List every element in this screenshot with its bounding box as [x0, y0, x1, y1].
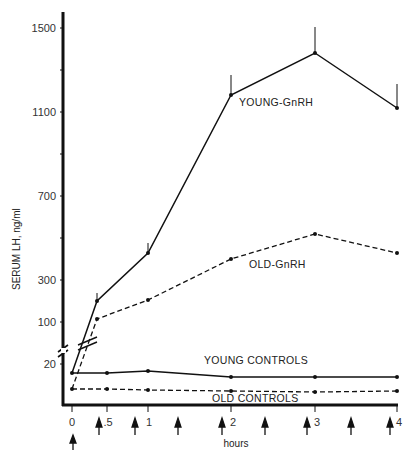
arrow-up-icon: [304, 418, 310, 435]
svg-text:700: 700: [38, 190, 56, 202]
svg-text:300: 300: [38, 274, 56, 286]
svg-text:4: 4: [396, 416, 402, 428]
y-tick-labels: 1500 1100 700 300 100 20: [32, 22, 56, 370]
svg-text:1500: 1500: [32, 22, 56, 34]
svg-text:2: 2: [230, 416, 236, 428]
label-young-gnrh: YOUNG-GnRH: [239, 96, 313, 108]
arrow-up-icon: [96, 418, 102, 435]
svg-text:20: 20: [44, 358, 56, 370]
svg-text:0: 0: [69, 416, 75, 428]
svg-text:1: 1: [146, 416, 152, 428]
svg-text:1100: 1100: [32, 106, 56, 118]
arrow-up-icon: [70, 435, 76, 450]
series-young-controls: [70, 369, 399, 379]
y-axis-title: SERUM LH, ng/ml: [11, 208, 22, 290]
arrow-up-icon: [262, 418, 268, 435]
arrow-up-icon: [175, 418, 181, 435]
label-young-controls: YOUNG CONTROLS: [204, 354, 308, 366]
series-young-gnrh: [72, 27, 399, 373]
label-old-controls: OLD CONTROLS: [212, 392, 298, 404]
arrow-up-icon: [132, 418, 138, 435]
svg-text:.5: .5: [103, 416, 112, 428]
arrow-up-icon: [348, 418, 354, 435]
x-axis-title: hours: [223, 438, 248, 449]
label-old-gnrh: OLD-GnRH: [249, 258, 306, 270]
arrow-up-icon: [219, 418, 225, 435]
svg-text:3: 3: [314, 416, 320, 428]
svg-text:100: 100: [38, 316, 56, 328]
lh-chart: 1500 1100 700 300 100 20 SERUM LH, ng/ml…: [0, 0, 413, 462]
arrow-up-icon: [387, 418, 393, 435]
